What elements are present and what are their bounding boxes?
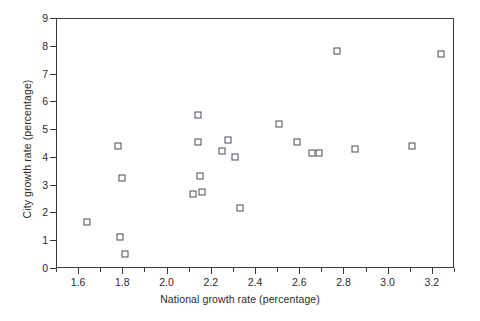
y-tick-label: 9 xyxy=(22,13,48,23)
data-point xyxy=(119,174,126,181)
y-tick xyxy=(50,157,56,158)
data-point xyxy=(117,234,124,241)
data-point xyxy=(196,173,203,180)
x-tick xyxy=(299,268,300,274)
data-point xyxy=(190,191,197,198)
data-point xyxy=(294,138,301,145)
x-tick xyxy=(343,268,344,274)
data-point xyxy=(83,219,90,226)
x-tick xyxy=(211,268,212,274)
y-tick xyxy=(50,129,56,130)
data-point xyxy=(225,137,232,144)
x-tick xyxy=(432,268,433,274)
data-point xyxy=(408,142,415,149)
y-axis-title: City growth rate (percentage) xyxy=(21,64,33,234)
data-point xyxy=(276,120,283,127)
x-tick-minor xyxy=(366,268,367,272)
x-tick xyxy=(167,268,168,274)
y-tick xyxy=(50,18,56,19)
y-tick xyxy=(50,240,56,241)
x-tick-label: 2.8 xyxy=(336,277,351,288)
x-tick-label: 2.4 xyxy=(248,277,263,288)
y-tick xyxy=(50,74,56,75)
y-tick xyxy=(50,185,56,186)
data-point xyxy=(333,48,340,55)
y-tick xyxy=(50,101,56,102)
x-tick-minor xyxy=(233,268,234,272)
x-tick-label: 1.6 xyxy=(71,277,86,288)
scatter-plot-figure: 0123456789 1.61.82.02.22.42.62.83.03.2 N… xyxy=(0,0,480,321)
x-tick-label: 1.8 xyxy=(115,277,130,288)
x-tick-label: 3.0 xyxy=(380,277,395,288)
x-axis-title: National growth rate (percentage) xyxy=(0,293,480,305)
x-tick-label: 2.0 xyxy=(159,277,174,288)
y-tick xyxy=(50,212,56,213)
x-tick xyxy=(122,268,123,274)
x-tick-minor xyxy=(410,268,411,272)
x-tick-label: 2.2 xyxy=(203,277,218,288)
x-tick-minor xyxy=(277,268,278,272)
data-point xyxy=(121,251,128,258)
x-tick xyxy=(255,268,256,274)
data-point xyxy=(236,205,243,212)
data-point xyxy=(232,153,239,160)
y-tick-label: 0 xyxy=(22,263,48,273)
x-tick-minor xyxy=(144,268,145,272)
x-tick xyxy=(78,268,79,274)
y-tick-label: 1 xyxy=(22,235,48,245)
x-tick-minor xyxy=(56,268,57,272)
data-point xyxy=(437,51,444,58)
data-point xyxy=(194,138,201,145)
x-tick-minor xyxy=(454,268,455,272)
x-tick-label: 2.6 xyxy=(292,277,307,288)
data-point xyxy=(114,142,121,149)
data-point xyxy=(218,148,225,155)
x-tick-minor xyxy=(189,268,190,272)
x-tick-label: 3.2 xyxy=(425,277,440,288)
data-point xyxy=(316,149,323,156)
x-tick xyxy=(388,268,389,274)
x-tick-minor xyxy=(100,268,101,272)
y-tick xyxy=(50,46,56,47)
data-point xyxy=(194,112,201,119)
x-tick-minor xyxy=(321,268,322,272)
data-point xyxy=(198,188,205,195)
data-point xyxy=(351,145,358,152)
y-tick-label: 8 xyxy=(22,41,48,51)
